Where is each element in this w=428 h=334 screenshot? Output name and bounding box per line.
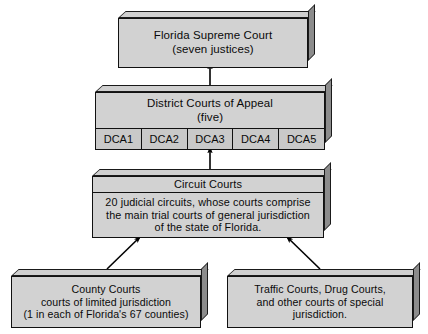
circuit-courts-header: Circuit Courts — [93, 177, 323, 193]
special-courts-line-3: jurisdiction. — [228, 308, 412, 321]
dca-cell-2[interactable]: DCA2 — [142, 129, 188, 149]
node-face: Circuit Courts 20 judicial circuits, who… — [92, 176, 324, 238]
node-face: District Courts of Appeal (five) DCA1 DC… — [95, 92, 325, 150]
dca-subtitle: (five) — [147, 111, 273, 125]
dca-cell-5[interactable]: DCA5 — [279, 129, 324, 149]
county-courts-title: County Courts — [12, 283, 200, 296]
box-top-bevel — [118, 11, 316, 18]
box-side-panel — [324, 162, 331, 231]
box-side-panel — [201, 262, 208, 321]
box-top-bevel — [92, 169, 332, 176]
county-courts-line-2: courts of limited jurisdiction — [12, 296, 200, 309]
box-top-bevel — [227, 269, 421, 276]
circuit-courts-body: 20 judicial circuits, whose courts compr… — [93, 193, 323, 237]
dca-title: District Courts of Appeal — [147, 97, 273, 111]
dca-cell-3[interactable]: DCA3 — [188, 129, 234, 149]
court-hierarchy-diagram: Florida Supreme Court (seven justices) D… — [0, 0, 428, 334]
circuit-courts-title: Circuit Courts — [174, 178, 242, 191]
node-face: County Courts courts of limited jurisdic… — [11, 276, 201, 328]
county-courts-line-3: (1 in each of Florida's 67 counties) — [12, 308, 200, 321]
special-courts-line-2: and other courts of special — [228, 296, 412, 309]
arrow-county-to-circuit — [107, 236, 141, 269]
node-face: Florida Supreme Court (seven justices) — [118, 18, 308, 68]
box-side-panel — [308, 4, 315, 61]
supreme-court-subtitle: (seven justices) — [119, 43, 307, 57]
arrow-special-to-circuit — [286, 236, 320, 269]
box-side-panel — [325, 78, 332, 143]
box-top-bevel — [95, 85, 333, 92]
box-top-bevel — [11, 269, 209, 276]
box-side-panel — [413, 262, 420, 321]
node-face: Traffic Courts, Drug Courts, and other c… — [227, 276, 413, 328]
dca-cell-1[interactable]: DCA1 — [96, 129, 142, 149]
dca-cell-strip: DCA1 DCA2 DCA3 DCA4 DCA5 — [96, 128, 324, 149]
circuit-courts-line-3: of the state of Florida. — [105, 221, 310, 234]
supreme-court-title: Florida Supreme Court — [119, 29, 307, 43]
circuit-courts-line-1: 20 judicial circuits, whose courts compr… — [105, 196, 310, 209]
circuit-courts-line-2: the main trial courts of general jurisdi… — [105, 209, 310, 222]
dca-cell-4[interactable]: DCA4 — [233, 129, 279, 149]
special-courts-line-1: Traffic Courts, Drug Courts, — [228, 283, 412, 296]
